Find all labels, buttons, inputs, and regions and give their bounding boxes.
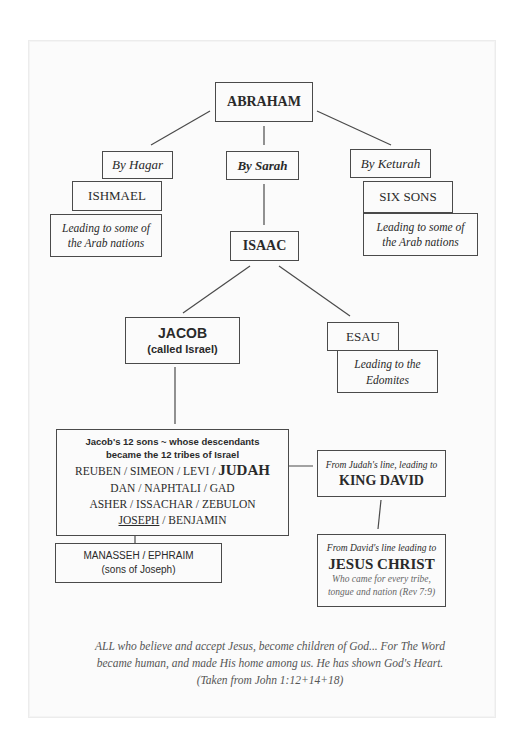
jacob-box: JACOB (called Israel) <box>125 317 240 364</box>
abraham-label: ABRAHAM <box>227 94 301 110</box>
tribes-heading-line2: became the 12 tribes of Israel <box>106 448 239 461</box>
six-sons-note-line2: the Arab nations <box>382 235 458 250</box>
jesus-note-line1: Who came for every tribe, <box>332 573 431 586</box>
by-keturah-label: By Keturah <box>361 156 421 172</box>
isaac-label: ISAAC <box>243 238 287 254</box>
abraham-box: ABRAHAM <box>215 82 313 122</box>
six-sons-note-line1: Leading to some of <box>377 220 465 235</box>
tribes-heading-line1: Jacob's 12 sons ~ whose descendants <box>85 435 259 448</box>
tribes-box: Jacob's 12 sons ~ whose descendants beca… <box>56 429 289 536</box>
tribes-row-4: JOSEPH / BENJAMIN <box>119 512 227 528</box>
jacob-alias: (called Israel) <box>147 342 217 356</box>
ishmael-note-line1: Leading to some of <box>62 221 150 236</box>
esau-note-box: Leading to the Edomites <box>337 350 438 393</box>
by-hagar-label: By Hagar <box>112 157 163 173</box>
esau-box: ESAU <box>327 322 399 351</box>
esau-label: ESAU <box>346 329 380 345</box>
esau-note-line1: Leading to the <box>354 356 420 372</box>
jesus-intro: From David's line leading to <box>327 542 436 555</box>
scripture-caption: ALL who believe and accept Jesus, become… <box>80 638 460 689</box>
six-sons-note-box: Leading to some of the Arab nations <box>363 213 478 256</box>
by-keturah-box: By Keturah <box>350 149 431 178</box>
caption-line-2: became human, and made His home among us… <box>80 655 460 672</box>
by-hagar-box: By Hagar <box>102 151 173 179</box>
esau-note-line2: Edomites <box>366 372 409 388</box>
caption-line-1: ALL who believe and accept Jesus, become… <box>80 638 460 655</box>
king-david-intro: From Judah's line, leading to <box>326 458 438 472</box>
joseph-sons-note: (sons of Joseph) <box>102 563 176 577</box>
tribes-row-3: ASHER / ISSACHAR / ZEBULON <box>89 496 255 512</box>
judah-emphasis: JUDAH <box>218 462 270 478</box>
jesus-christ-box: From David's line leading to JESUS CHRIS… <box>317 534 446 607</box>
tribes-row-1: REUBEN / SIMEON / LEVI / JUDAH <box>75 462 270 480</box>
six-sons-label: SIX SONS <box>379 189 436 205</box>
by-sarah-box: By Sarah <box>226 151 299 180</box>
six-sons-box: SIX SONS <box>363 181 453 213</box>
by-sarah-label: By Sarah <box>237 158 287 174</box>
jesus-note-line2: tongue and nation (Rev 7:9) <box>328 586 435 599</box>
joseph-sons-names: MANASSEH / EPHRAIM <box>83 549 193 563</box>
joseph-underlined: JOSEPH <box>119 514 160 526</box>
king-david-box: From Judah's line, leading to KING DAVID <box>317 450 446 497</box>
tribes-row-1-text: REUBEN / SIMEON / LEVI / <box>75 465 218 477</box>
king-david-label: KING DAVID <box>339 472 424 490</box>
isaac-box: ISAAC <box>230 231 299 261</box>
ishmael-note-line2: the Arab nations <box>68 236 144 251</box>
ishmael-label: ISHMAEL <box>88 188 146 204</box>
joseph-sons-box: MANASSEH / EPHRAIM (sons of Joseph) <box>55 543 222 583</box>
jacob-label: JACOB <box>158 325 207 342</box>
caption-line-3: (Taken from John 1:12+14+18) <box>80 672 460 689</box>
tribes-row-4-rest: / BENJAMIN <box>159 514 226 526</box>
jesus-label: JESUS CHRIST <box>328 555 434 573</box>
tribes-row-2: DAN / NAPHTALI / GAD <box>110 480 234 496</box>
ishmael-note-box: Leading to some of the Arab nations <box>50 214 162 257</box>
ishmael-box: ISHMAEL <box>72 181 162 211</box>
